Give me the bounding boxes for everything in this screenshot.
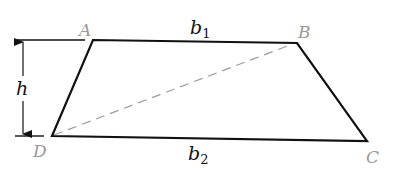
base-b1-letter: b — [190, 16, 202, 38]
vertex-label-a: A — [77, 20, 91, 40]
height-label: h — [16, 77, 28, 99]
base-b2-letter: b — [188, 142, 200, 164]
base-b1-subscript: 1 — [202, 26, 210, 41]
diagonal-db — [54, 45, 290, 135]
trapezoid-shape — [52, 40, 367, 141]
vertex-label-c: C — [366, 147, 379, 167]
trapezoid-diagram: A B C D b1 b2 h — [0, 0, 396, 178]
base-b2-subscript: 2 — [200, 152, 208, 167]
vertex-label-d: D — [32, 141, 47, 161]
base-b1-label: b1 — [190, 16, 210, 41]
vertex-label-b: B — [297, 22, 311, 42]
base-b2-label: b2 — [188, 142, 208, 167]
